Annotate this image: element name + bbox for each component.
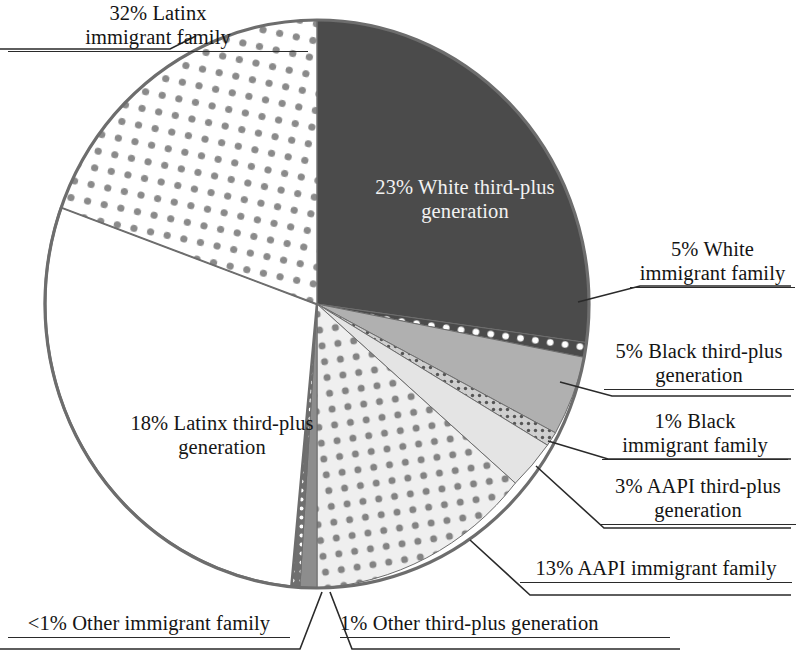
pie-slices bbox=[45, 20, 589, 588]
label-white-immigrant-family: 5% White immigrant family bbox=[630, 238, 795, 288]
label-latinx-immigrant-family: 32% Latinx immigrant family bbox=[8, 2, 308, 52]
label-aapi-immigrant-family: 13% AAPI immigrant family bbox=[520, 557, 792, 583]
label-white-third-plus-generation: 23% White third-plus generation bbox=[340, 176, 590, 224]
label-black-third-plus-generation: 5% Black third-plus generation bbox=[604, 340, 794, 390]
label-other-third-plus-generation: 1% Other third-plus generation bbox=[340, 612, 670, 638]
label-other-immigrant-family: <1% Other immigrant family bbox=[8, 612, 290, 638]
leader-white-immigrant bbox=[578, 286, 791, 302]
label-aapi-third-plus-generation: 3% AAPI third-plus generation bbox=[600, 475, 796, 525]
label-latinx-third-plus-generation: 18% Latinx third-plus generation bbox=[84, 412, 360, 460]
label-black-immigrant-family: 1% Black immigrant family bbox=[602, 410, 788, 460]
